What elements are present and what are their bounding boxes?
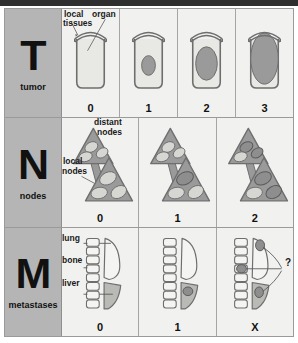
panel-n1[interactable]: 1	[139, 118, 216, 226]
panel-n0[interactable]: distant nodes local nodes 0	[62, 118, 139, 226]
panel-art-mx: ?	[217, 228, 293, 319]
row-label-tumor: T tumor	[5, 9, 62, 117]
stage-number-m1: 1	[139, 319, 215, 336]
stage-number-m0: 0	[62, 319, 138, 336]
panel-t1[interactable]: 1	[120, 9, 178, 117]
panel-t2[interactable]: 2	[178, 9, 236, 117]
panel-t3[interactable]: 3	[236, 9, 293, 117]
panel-art-t2	[178, 9, 235, 100]
stage-number-n2: 2	[217, 210, 293, 227]
panel-art-t1	[120, 9, 177, 100]
panel-art-m0: lung bone liver	[62, 228, 138, 319]
row-letter-n: N	[18, 144, 48, 185]
row-word-tumor: tumor	[20, 82, 46, 92]
scan-top-bar	[0, 0, 298, 6]
tnm-staging-figure: T tumor	[0, 0, 298, 343]
tumor-stage-panels: local organ tissues 0	[62, 9, 293, 117]
row-letter-t: T	[20, 35, 45, 76]
row-label-metastases: M metastases	[5, 228, 62, 336]
panel-art-n2	[217, 118, 293, 209]
stage-number-mx: X	[217, 319, 293, 336]
staging-table: T tumor	[4, 8, 294, 337]
row-tumor: T tumor	[5, 9, 293, 118]
metastases-stage-panels: lung bone liver 0	[62, 228, 293, 336]
stage-number-t1: 1	[120, 100, 177, 117]
panel-t0[interactable]: local organ tissues 0	[62, 9, 120, 117]
panel-mx[interactable]: ? X	[217, 228, 293, 336]
stage-number-t0: 0	[62, 100, 119, 117]
row-word-nodes: nodes	[20, 191, 47, 201]
panel-art-t0: local organ tissues	[62, 9, 119, 100]
panel-art-n1	[139, 118, 215, 209]
panel-art-t3	[236, 9, 293, 100]
panel-m1[interactable]: 1	[139, 228, 216, 336]
row-label-nodes: N nodes	[5, 118, 62, 226]
stage-number-t2: 2	[178, 100, 235, 117]
panel-n2[interactable]: 2	[217, 118, 293, 226]
stage-number-n1: 1	[139, 210, 215, 227]
stage-number-t3: 3	[236, 100, 293, 117]
panel-art-n0: distant nodes local nodes	[62, 118, 138, 209]
row-word-metastases: metastases	[8, 300, 57, 310]
nodes-stage-panels: distant nodes local nodes 0	[62, 118, 293, 226]
stage-number-n0: 0	[62, 210, 138, 227]
panel-art-m1	[139, 228, 215, 319]
row-nodes: N nodes	[5, 118, 293, 227]
row-metastases: M metastases	[5, 228, 293, 336]
row-letter-m: M	[16, 253, 51, 294]
panel-m0[interactable]: lung bone liver 0	[62, 228, 139, 336]
